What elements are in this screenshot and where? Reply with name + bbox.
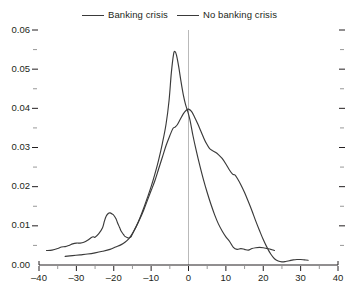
- y-tick-label: 0.00: [12, 259, 31, 270]
- density-chart: Banking crisis No banking crisis 0.000.0…: [0, 0, 359, 291]
- x-axis-major-ticks: [39, 266, 338, 271]
- x-tick-label: 40: [333, 272, 344, 283]
- y-tick-label: 0.06: [12, 24, 31, 35]
- plot-area: 0.000.010.020.030.040.050.06 –40–30–20–1…: [0, 0, 359, 291]
- y-axis-right-ticks: [339, 30, 345, 245]
- series-line-banking-crisis: [65, 51, 274, 256]
- y-axis-tick-labels: 0.000.010.020.030.040.050.06: [12, 24, 31, 270]
- x-tick-label: 0: [186, 272, 191, 283]
- y-tick-label: 0.02: [12, 180, 31, 191]
- x-tick-label: 10: [221, 272, 232, 283]
- y-tick-label: 0.01: [12, 219, 31, 230]
- x-tick-label: –30: [68, 272, 84, 283]
- x-tick-label: –10: [143, 272, 159, 283]
- y-tick-label: 0.03: [12, 141, 31, 152]
- x-tick-label: 20: [258, 272, 269, 283]
- y-tick-label: 0.04: [12, 102, 31, 113]
- series-lines: [46, 51, 308, 262]
- x-tick-label: 30: [295, 272, 306, 283]
- y-tick-label: 0.05: [12, 63, 31, 74]
- x-tick-label: –20: [106, 272, 122, 283]
- series-line-no-banking-crisis: [46, 109, 308, 262]
- x-axis-tick-labels: –40–30–20–10010203040: [31, 272, 343, 283]
- x-tick-label: –40: [31, 272, 47, 283]
